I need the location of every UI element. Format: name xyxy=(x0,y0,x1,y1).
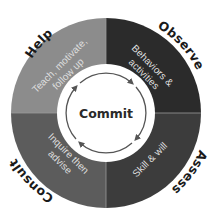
center-label: Commit xyxy=(79,106,133,121)
coaching-cycle-diagram: Commit Help Observe Assess Consult Teach… xyxy=(0,0,213,219)
